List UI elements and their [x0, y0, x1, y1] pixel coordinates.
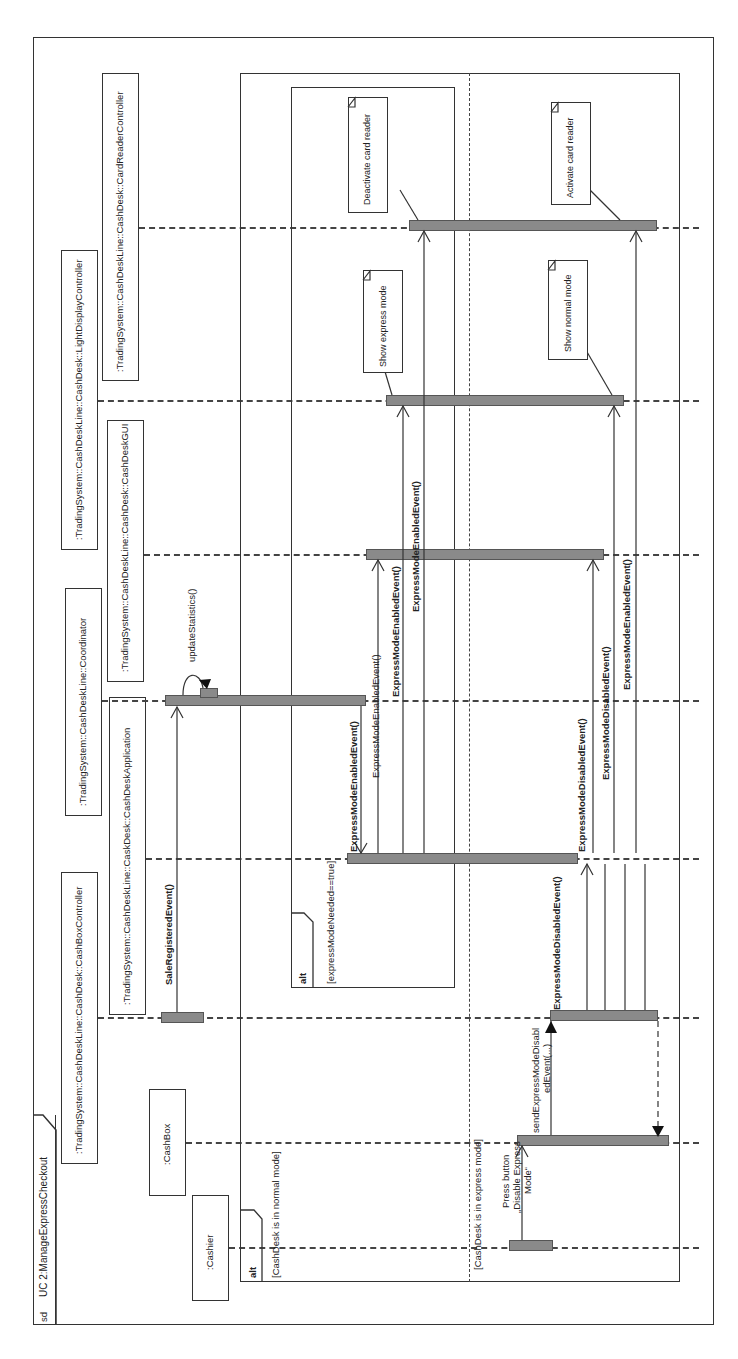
note-fold-4: [0, 0, 738, 1359]
note-show-normal-text: Show normal mode: [563, 274, 574, 352]
